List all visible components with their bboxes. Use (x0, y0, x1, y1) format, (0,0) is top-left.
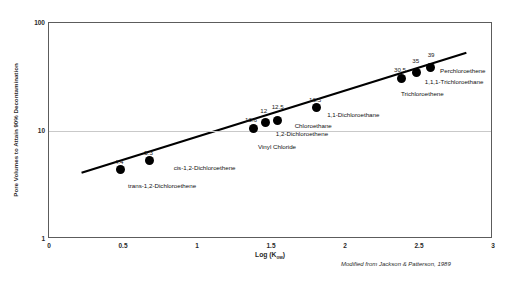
x-axis-tick-label: 1.5 (266, 243, 275, 250)
data-point-value-label: 30.5 (394, 67, 406, 73)
chart-figure: Pore Volumes to Attain 90% Decontaminati… (0, 0, 507, 284)
data-point-name-label: Vinyl Chloride (258, 144, 296, 150)
y-axis-tick-label: 1 (41, 236, 45, 243)
data-point-name-label: 1,2-Dichloroethene (276, 131, 328, 137)
data-point-name-label: 1,1,1-Trichloroethane (425, 79, 484, 85)
data-point-value-label: 12 (260, 108, 267, 114)
x-axis-tick-label: 2.5 (414, 243, 423, 250)
data-point (426, 63, 435, 72)
data-point-name-label: Perchloroethene (440, 68, 485, 74)
source-attribution: Modified from Jackson & Patterson, 1989 (341, 261, 451, 267)
x-axis-tick-label: 0 (47, 243, 51, 250)
data-point-value-label: 10.6 (245, 117, 257, 123)
data-point (273, 116, 282, 125)
data-point-name-label: trans-1,2-Dichloroethene (128, 183, 196, 189)
data-point (412, 68, 421, 77)
plot-area: 11010000.511.522.534.4trans-1,2-Dichloro… (48, 22, 492, 238)
x-axis-title-close: ) (283, 251, 285, 258)
x-axis-title: Log (Kow) (48, 252, 492, 259)
data-point-value-label: 12.5 (272, 104, 284, 110)
data-point (261, 118, 270, 127)
x-axis-title-main: Log (K (255, 251, 277, 258)
data-point-name-label: 1,1-Dichloroethane (327, 112, 379, 118)
data-point-name-label: Trichloroethene (401, 91, 444, 97)
regression-trendline (82, 53, 467, 173)
x-axis-title-subscript: ow (277, 255, 283, 260)
data-point-value-label: 35 (412, 58, 419, 64)
data-point-value-label: 5.3 (144, 150, 153, 156)
data-point-name-label: Chloroethane (295, 123, 332, 129)
y-axis-tick-label: 100 (34, 20, 45, 27)
x-axis-tick-label: 3 (491, 243, 495, 250)
y-gridline (49, 131, 491, 132)
y-axis-tick-label: 10 (38, 128, 45, 135)
data-point (397, 74, 406, 83)
data-point-value-label: 39 (428, 52, 435, 58)
data-point (145, 156, 154, 165)
x-axis-tick-label: 0.5 (118, 243, 127, 250)
data-point-value-label: 4.4 (115, 159, 124, 165)
data-point (116, 165, 125, 174)
x-axis-tick-label: 1 (195, 243, 199, 250)
data-point-value-label: 16.5 (309, 97, 321, 103)
data-point (312, 103, 321, 112)
data-point-name-label: cis-1,2-Dichloroethene (174, 165, 236, 171)
x-axis-tick-label: 2 (343, 243, 347, 250)
y-axis-title: Pore Volumes to Attain 90% Decontaminati… (10, 22, 22, 238)
